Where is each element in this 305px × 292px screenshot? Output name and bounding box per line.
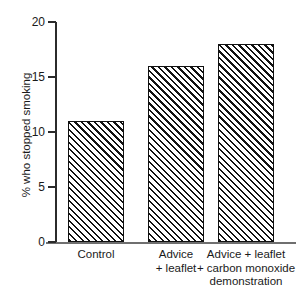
y-axis-tick: [48, 131, 56, 133]
clipped-caption-remnant: ........ ..... .... ...... ... ......: [0, 0, 305, 3]
x-axis-line: [46, 242, 296, 244]
bar-chart-figure: ........ ..... .... ...... ... ...... % …: [0, 0, 305, 292]
y-axis-tick-label: 20: [18, 16, 45, 28]
x-axis-tick-label: Advice + leaflet+ carbon monoxidedemonst…: [190, 248, 302, 289]
y-axis-tick-label: 15: [18, 71, 45, 83]
y-axis-tick-label: 5: [18, 181, 45, 193]
bar: [218, 44, 274, 242]
y-axis-tick: [48, 76, 56, 78]
y-axis-tick-label: 10: [18, 126, 45, 138]
bar: [68, 121, 124, 242]
bar: [148, 66, 204, 242]
y-axis-tick-label: 0: [18, 236, 45, 248]
y-axis-tick: [48, 21, 56, 23]
y-axis-tick: [48, 186, 56, 188]
y-axis-tick: [48, 241, 56, 243]
